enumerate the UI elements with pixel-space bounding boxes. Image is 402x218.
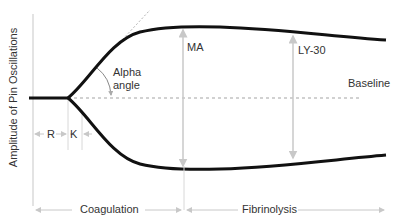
fibrinolysis-label: Fibrinolysis: [242, 204, 297, 215]
coagulation-label: Coagulation: [80, 204, 139, 215]
r-label: R: [47, 129, 55, 140]
teg-curve-lower: [68, 98, 386, 169]
ma-label: MA: [187, 42, 204, 53]
k-label: K: [70, 129, 77, 140]
alpha-label-line1: Alpha: [113, 67, 141, 78]
y-axis-label: Amplitude of Pin Oscillations: [8, 18, 19, 178]
teg-diagram: [0, 0, 402, 218]
ly30-label: LY-30: [298, 45, 326, 56]
baseline-label: Baseline: [348, 78, 390, 89]
alpha-label-line2: angle: [113, 80, 140, 91]
alpha-arc: [97, 68, 111, 95]
